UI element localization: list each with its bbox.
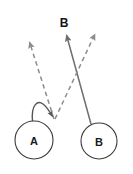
target-marker-label: B — [60, 16, 69, 30]
diagram-canvas: A B B — [0, 0, 133, 174]
edge-dashed-up-right — [55, 34, 95, 119]
edge-solid-b-to-target — [67, 35, 92, 124]
node-b-label: B — [95, 136, 103, 148]
edge-self-loop-a — [32, 103, 52, 121]
node-a[interactable]: A — [15, 121, 53, 159]
node-b[interactable]: B — [81, 123, 117, 159]
diagram-svg: A B B — [0, 0, 133, 174]
node-a-label: A — [30, 135, 38, 147]
